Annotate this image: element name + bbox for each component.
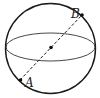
point-a — [19, 78, 23, 82]
sphere-diagram: B A — [0, 0, 100, 98]
point-b — [80, 13, 84, 17]
label-b: B — [70, 7, 80, 21]
center-point — [49, 46, 53, 50]
sphere-figure: B A — [0, 0, 100, 98]
label-a: A — [24, 76, 34, 90]
